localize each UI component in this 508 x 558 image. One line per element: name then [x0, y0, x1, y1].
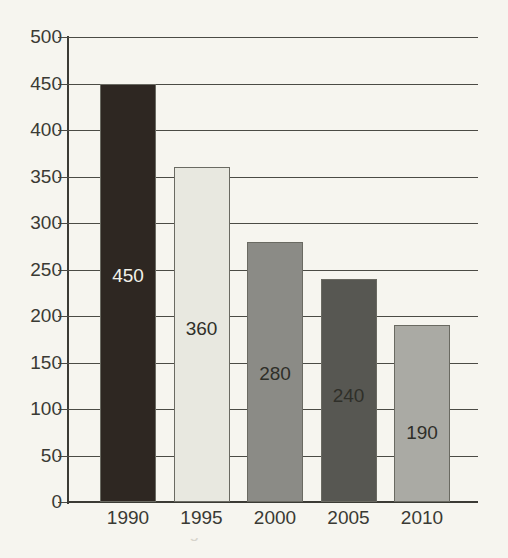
bar-value-label-1990: 450 [101, 266, 155, 285]
caption-sliver: illustration of declining values over ti… [0, 538, 508, 558]
bar-1990[interactable]: 450 [100, 84, 156, 503]
bar-chart: 050100150200250300350400450500 450360280… [0, 0, 508, 530]
bar-value-label-1995: 360 [175, 319, 229, 338]
y-axis-label-250: 250 [10, 260, 62, 279]
bar-value-label-2005: 240 [322, 386, 376, 405]
chart-page: 050100150200250300350400450500 450360280… [0, 0, 508, 558]
y-axis-label-50: 50 [10, 446, 62, 465]
caption-fragment-text: illustration of declining values over ti… [22, 538, 335, 543]
y-axis-label-400: 400 [10, 120, 62, 139]
x-axis-label-1995: 1995 [168, 508, 236, 527]
x-axis-label-2000: 2000 [241, 508, 309, 527]
y-axis-label-300: 300 [10, 213, 62, 232]
y-axis-label-100: 100 [10, 399, 62, 418]
x-axis-label-2005: 2005 [315, 508, 383, 527]
bar-value-label-2010: 190 [395, 423, 449, 442]
bar-2000[interactable]: 280 [247, 242, 303, 502]
bar-2005[interactable]: 240 [321, 279, 377, 502]
x-axis-label-1990: 1990 [94, 508, 162, 527]
gridline-500 [67, 37, 478, 38]
x-axis-label-2010: 2010 [388, 508, 456, 527]
y-axis-label-500: 500 [10, 27, 62, 46]
bar-2010[interactable]: 190 [394, 325, 450, 502]
y-axis-label-0: 0 [10, 492, 62, 511]
y-axis-label-200: 200 [10, 306, 62, 325]
y-axis-label-350: 350 [10, 167, 62, 186]
bar-1995[interactable]: 360 [174, 167, 230, 502]
bar-value-label-2000: 280 [248, 364, 302, 383]
y-axis-label-450: 450 [10, 74, 62, 93]
y-axis-label-150: 150 [10, 353, 62, 372]
